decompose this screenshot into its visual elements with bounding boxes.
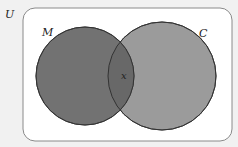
set-m-label: M (41, 26, 54, 39)
set-c-label: C (199, 27, 208, 40)
universe-label: U (5, 8, 15, 21)
intersection-label: x (121, 70, 127, 81)
venn-diagram: U M C x (0, 0, 238, 147)
